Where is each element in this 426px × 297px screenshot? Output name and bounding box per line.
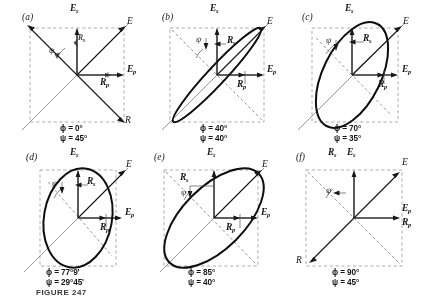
panel-f-label-E: E (402, 158, 408, 168)
panel-c-tag: (c) (302, 12, 313, 22)
panel-d-label-E: E (126, 160, 132, 170)
panel-c-label-E: E (403, 17, 409, 27)
panel-c-label-psi: ψ (326, 36, 331, 45)
panel-b-angles: ϕ = 40° ψ = 40° (200, 124, 227, 143)
panel-a-phi: ϕ = 0° (60, 124, 87, 134)
panel-d: (d) Es E Ep Rs Rp ψ ϕ = 77°9' ψ = 29°45' (14, 148, 156, 295)
panel-b-vector-E (217, 26, 266, 75)
panel-f-vector-R (309, 218, 354, 263)
panel-a-tag: (a) (22, 12, 33, 22)
panel-c-psi: ψ = 35° (334, 134, 361, 144)
panel-f-vector-E (354, 172, 400, 218)
figure-caption: FIGURE 247 (36, 288, 87, 297)
panel-e: (e) Es E Ep Rs Rp ψ ϕ = 85° ψ = 40° (150, 148, 292, 295)
panel-f-vector-Ep (354, 216, 400, 221)
panel-f-label-Es: Es (347, 148, 356, 158)
panel-a-vector-R (27, 25, 125, 123)
panel-d-vector-Es (76, 170, 81, 218)
panel-e-label-E: E (262, 160, 268, 170)
panel-f-label-Rs: Rs (328, 148, 337, 158)
panel-c-marker-Rs (349, 40, 364, 45)
panel-f-label-R: R (296, 256, 302, 266)
panel-b-vector-Es (215, 28, 220, 75)
panel-f-vector-Es (352, 170, 357, 218)
panel-c-vector-E (352, 26, 402, 75)
panel-e-tag: (e) (154, 152, 165, 162)
panel-c-vector-Ep (352, 73, 398, 78)
panel-c-angles: ϕ = 70° ψ = 35° (334, 124, 361, 143)
panel-b-phi: ϕ = 40° (200, 124, 227, 134)
panel-c-label-Rs: Rs (363, 34, 372, 44)
panel-a-label-Ep: Ep (127, 65, 137, 75)
panel-a-psi: ψ = 45° (60, 134, 87, 144)
panel-c-label-Ep: Ep (402, 65, 412, 75)
panel-a-label-Rp: Rp (100, 78, 110, 88)
panel-b-label-Ep: Ep (267, 65, 277, 75)
panel-e-psi: ψ = 40° (188, 278, 215, 288)
panel-a-angles: ϕ = 0° ψ = 45° (60, 124, 87, 143)
panel-c-phi: ϕ = 70° (334, 124, 361, 134)
panel-d-label-Rp: Rp (100, 223, 110, 233)
panel-e-label-Ep: Ep (261, 208, 271, 218)
panel-b: (b) Es E Ep Rs Rp ψ ϕ = 40° ψ = 40° (148, 2, 290, 149)
panel-c-label-Es: Es (345, 4, 354, 14)
panel-f-tag: (f) (296, 152, 305, 162)
panel-b-label-E: E (267, 17, 273, 27)
panel-d-label-Rs: Rs (87, 177, 96, 187)
panel-a-label-Es: Es (70, 4, 79, 14)
panel-f-phi: ϕ = 90° (332, 268, 359, 278)
panel-b-label-Rs: Rs (227, 36, 236, 46)
panel-f-label-Rp: Rp (402, 218, 412, 228)
panel-d-psi: ψ = 29°45' (46, 278, 84, 288)
panel-b-label-Rp: Rp (237, 80, 247, 90)
panel-d-label-psi: ψ (52, 179, 57, 188)
panel-f: (f) Rs Es E Ep Rp R ψ ϕ = 90° ψ = 45° (288, 148, 426, 295)
panel-b-tag: (b) (162, 12, 173, 22)
panel-f-angles: ϕ = 90° ψ = 45° (332, 268, 359, 287)
panel-e-label-psi: ψ (181, 188, 186, 197)
panel-a-label-psi: ψ (49, 46, 54, 55)
panel-e-label-Rp: Rp (226, 223, 236, 233)
panel-a-label-E: E (127, 17, 133, 27)
panel-a-marker-Rs (74, 40, 78, 47)
panel-a: (a) Es E Ep R Rs Rp ψ ϕ = 0° ψ = 45° (8, 2, 150, 149)
panel-b-psi: ψ = 40° (200, 134, 227, 144)
figure-polarization-ellipses: (a) Es E Ep R Rs Rp ψ ϕ = 0° ψ = 45° (0, 0, 426, 297)
panel-b-label-psi: ψ (196, 35, 201, 44)
panel-d-phi: ϕ = 77°9' (46, 268, 84, 278)
panel-d-angles: ϕ = 77°9' ψ = 29°45' (46, 268, 84, 287)
panel-c-label-Rp: Rp (378, 80, 388, 90)
panel-e-vector-E (214, 170, 262, 218)
panel-e-label-Rs: Rs (180, 173, 189, 183)
panel-d-label-Ep: Ep (125, 208, 135, 218)
panel-e-phi: ϕ = 85° (188, 268, 215, 278)
panel-b-label-Es: Es (210, 4, 219, 14)
panel-f-label-psi: ψ (326, 186, 331, 195)
panel-c-vector-Es (350, 28, 355, 75)
panel-f-psi: ψ = 45° (332, 278, 359, 288)
panel-a-label-Rs: Rs (78, 34, 86, 42)
panel-b-marker-Rs (214, 42, 226, 47)
panel-f-label-Ep: Ep (402, 204, 412, 214)
panel-a-label-R: R (125, 116, 131, 126)
panel-e-label-Es: Es (207, 148, 216, 158)
panel-e-angles: ϕ = 85° ψ = 40° (188, 268, 215, 287)
panel-d-tag: (d) (26, 152, 37, 162)
panel-d-label-Es: Es (70, 148, 79, 158)
panel-c: (c) Es E Ep Rs Rp ψ ϕ = 70° ψ = 35° (286, 2, 426, 149)
